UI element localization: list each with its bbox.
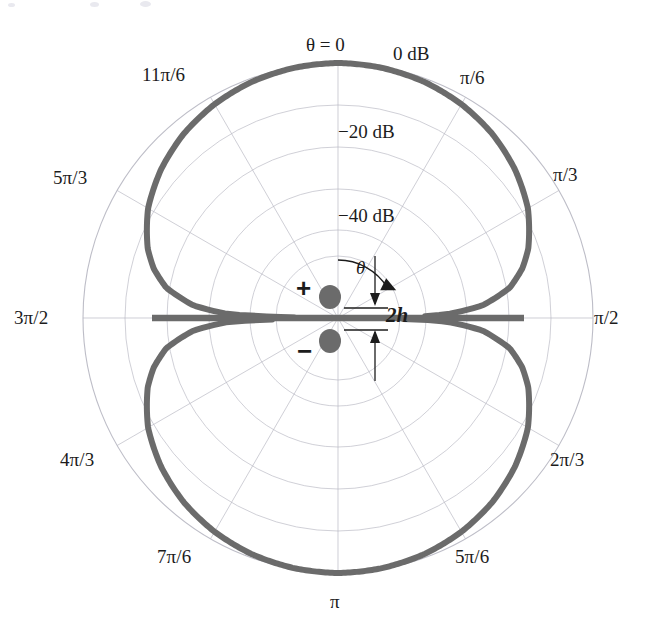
angle-label-eleven-pi-over-6: 11π/6 xyxy=(142,65,185,84)
angle-label-pi-over-2: π/2 xyxy=(594,308,619,327)
minus-sign-label: − xyxy=(297,338,312,364)
angle-label-seven-pi-over-6: 7π/6 xyxy=(157,547,191,566)
angle-label-pi-over-6: π/6 xyxy=(460,68,485,87)
angle-label-five-pi-over-3: 5π/3 xyxy=(53,168,87,187)
dimension-arrowhead-up xyxy=(370,330,380,343)
figure-root: θ = 0 π/6 π/3 π/2 2π/3 5π/6 π 7π/6 4π/3 … xyxy=(0,0,651,635)
polar-plot-canvas xyxy=(0,0,651,635)
angle-label-two-pi-over-3: 2π/3 xyxy=(550,450,584,469)
dimension-arrowhead-down xyxy=(370,293,380,306)
angle-label-four-pi-over-3: 4π/3 xyxy=(60,450,94,469)
radial-label-minus40db: −40 dB xyxy=(338,206,395,225)
spacing-2h-label: 2h xyxy=(386,305,408,326)
scan-speck xyxy=(90,2,99,7)
radial-label-minus20db: −20 dB xyxy=(338,122,395,141)
angle-label-pi: π xyxy=(330,592,340,611)
dipole-element-negative xyxy=(319,329,341,353)
dipole-element-positive xyxy=(319,285,341,309)
grid-spoke xyxy=(210,318,338,539)
angle-label-five-pi-over-6: 5π/6 xyxy=(455,547,489,566)
radial-label-0db: 0 dB xyxy=(393,44,429,63)
angle-label-pi-over-3: π/3 xyxy=(553,165,578,184)
plus-sign-label: + xyxy=(296,275,311,301)
angle-label-theta-zero: θ = 0 xyxy=(306,35,345,54)
grid-spoke xyxy=(211,97,338,318)
grid-spoke xyxy=(338,318,465,539)
scan-speck xyxy=(8,3,15,7)
scan-speck xyxy=(140,1,151,7)
theta-symbol-label: θ xyxy=(356,258,365,277)
angle-label-three-pi-over-2: 3π/2 xyxy=(14,308,48,327)
